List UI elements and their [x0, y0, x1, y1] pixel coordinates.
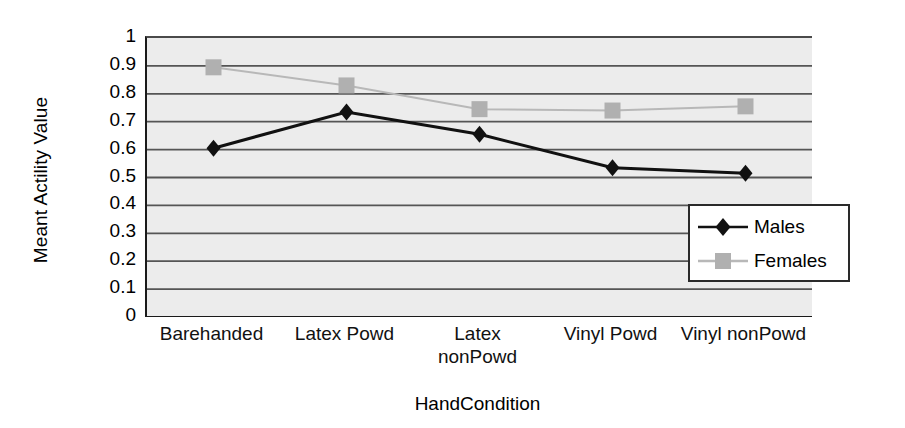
- y-axis-tick-label: 1: [72, 26, 136, 45]
- data-point-females-1: [339, 77, 355, 93]
- x-axis-title: HandCondition: [145, 392, 810, 415]
- legend-label-males: Males: [754, 214, 805, 240]
- data-point-males-4: [739, 165, 753, 182]
- legend-label-females: Females: [754, 248, 827, 274]
- data-point-males-1: [340, 103, 354, 120]
- legend-marker-square-icon: [696, 245, 750, 277]
- x-axis-tick-label: Vinyl nonPowd: [677, 322, 810, 345]
- data-point-males-3: [606, 159, 620, 176]
- data-point-males-2: [473, 126, 487, 143]
- legend-item-females: Females: [690, 245, 848, 277]
- y-axis-tick-label: 0.4: [72, 193, 136, 212]
- line-chart: Meant Actility Value 10.90.80.70.60.50.4…: [0, 0, 905, 428]
- x-axis-tick-label: Vinyl Powd: [544, 322, 677, 345]
- y-axis-tick-label: 0.6: [72, 138, 136, 157]
- y-axis-tick-label: 0.8: [72, 82, 136, 101]
- x-axis-tick-labels: BarehandedLatex PowdLatexnonPowdVinyl Po…: [145, 322, 810, 378]
- x-axis-tick-label: LatexnonPowd: [411, 322, 544, 368]
- x-axis-tick-label: Barehanded: [145, 322, 278, 345]
- data-point-females-0: [206, 59, 222, 75]
- data-point-females-3: [605, 103, 621, 119]
- y-axis-tick-label: 0.7: [72, 110, 136, 129]
- y-axis-tick-label: 0.5: [72, 166, 136, 185]
- data-point-females-4: [738, 98, 754, 114]
- data-point-males-0: [207, 140, 221, 157]
- y-axis-tick-labels: 10.90.80.70.60.50.40.30.20.10: [66, 0, 136, 428]
- y-axis-tick-label: 0: [72, 305, 136, 324]
- y-axis-tick-label: 0.2: [72, 249, 136, 268]
- x-axis-tick-label: Latex Powd: [278, 322, 411, 345]
- data-point-females-2: [472, 101, 488, 117]
- legend-marker-diamond-icon: [696, 211, 750, 243]
- y-axis-tick-label: 0.9: [72, 54, 136, 73]
- legend: Males Females: [688, 204, 850, 282]
- y-axis-tick-label: 0.1: [72, 277, 136, 296]
- y-axis-tick-label: 0.3: [72, 221, 136, 240]
- y-axis-title: Meant Actility Value: [28, 30, 54, 330]
- legend-item-males: Males: [690, 211, 848, 243]
